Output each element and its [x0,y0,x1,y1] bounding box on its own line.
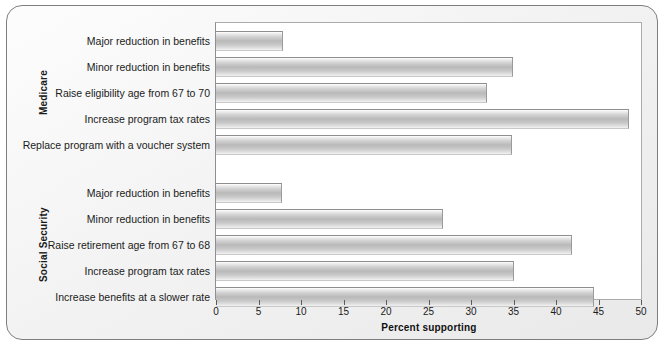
x-axis-title: Percent supporting [216,322,642,333]
category-labels: Major reduction in benefitsMinor reducti… [0,23,210,299]
bar [216,261,514,281]
category-label: Major reduction in benefits [0,187,210,199]
axis-tick [216,300,217,305]
axis-tick-label: 40 [550,306,561,317]
category-label: Minor reduction in benefits [0,61,210,73]
bar [216,235,572,255]
axis-tick-label: 15 [338,306,349,317]
axis-tick [301,300,302,305]
bar [216,83,487,103]
group-label: Medicare [38,70,49,115]
axis-tick [429,300,430,305]
x-axis: Percent supporting 05101520253035404550 [216,300,642,340]
axis-tick-label: 5 [256,306,262,317]
axis-tick [556,300,557,305]
axis-tick [599,300,600,305]
axis-tick [386,300,387,305]
bar [216,57,513,77]
bars-layer [216,23,641,299]
category-label: Minor reduction in benefits [0,213,210,225]
axis-tick-label: 20 [380,306,391,317]
bar [216,31,283,51]
axis-tick-label: 10 [295,306,306,317]
axis-tick [514,300,515,305]
chart-figure: Major reduction in benefitsMinor reducti… [0,0,666,352]
axis-tick-label: 0 [213,306,219,317]
axis-tick-label: 30 [465,306,476,317]
axis-tick-label: 50 [635,306,646,317]
axis-tick [641,300,642,305]
category-label: Increase benefits at a slower rate [0,291,210,303]
axis-tick [259,300,260,305]
bar [216,183,282,203]
bar [216,135,512,155]
category-label: Increase program tax rates [0,113,210,125]
category-label: Raise retirement age from 67 to 68 [0,239,210,251]
bar [216,109,629,129]
axis-tick-label: 45 [593,306,604,317]
group-label: Social Security [38,207,49,282]
axis-tick-label: 35 [508,306,519,317]
axis-tick-label: 25 [423,306,434,317]
category-label: Raise eligibility age from 67 to 70 [0,87,210,99]
bar [216,209,443,229]
category-label: Replace program with a voucher system [0,139,210,151]
category-label: Major reduction in benefits [0,35,210,47]
axis-tick [471,300,472,305]
axis-tick [344,300,345,305]
category-label: Increase program tax rates [0,265,210,277]
